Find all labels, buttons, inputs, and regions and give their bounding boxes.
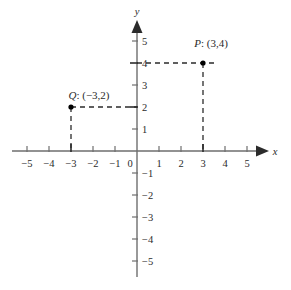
x-tick-label-5: 5 [244, 158, 249, 169]
y-tick-label-1: 1 [142, 124, 147, 135]
y-tick-label-neg1: −1 [142, 168, 153, 179]
point-q-coords: (−3,2) [82, 89, 110, 102]
x-tick-label-3: 3 [200, 158, 205, 169]
y-tick-label-neg4: −4 [142, 234, 154, 245]
x-tick-label-4: 4 [222, 158, 228, 169]
point-label-q: Q: (−3,2) [68, 89, 109, 102]
y-tick-label-neg3: −3 [142, 212, 153, 223]
y-tick-label-3: 3 [142, 80, 147, 91]
coordinate-plane-svg: −5 −4 −3 −2 −1 0 1 2 3 4 5 1 2 3 4 5 −1 … [0, 0, 291, 290]
y-axis-label: y [134, 6, 140, 17]
point-q-name: Q [68, 89, 76, 101]
x-tick-label-2: 2 [178, 158, 183, 169]
x-tick-label-neg4: −4 [43, 158, 55, 169]
x-tick-label-neg2: −2 [87, 158, 98, 169]
point-marker-p[interactable] [200, 60, 205, 65]
x-tick-label-neg3: −3 [65, 158, 76, 169]
point-marker-q[interactable] [68, 104, 73, 109]
y-tick-label-5: 5 [142, 36, 147, 47]
point-p-coords: (3,4) [207, 37, 228, 50]
x-tick-label-1: 1 [156, 158, 161, 169]
y-tick-label-neg2: −2 [142, 190, 153, 201]
coordinate-plane-figure: −5 −4 −3 −2 −1 0 1 2 3 4 5 1 2 3 4 5 −1 … [0, 0, 291, 290]
y-axis-arrowhead-icon [132, 20, 143, 33]
origin-label: 0 [127, 158, 132, 169]
x-axis-arrowhead-icon [256, 146, 269, 157]
point-label-p: P: (3,4) [193, 37, 228, 50]
x-tick-label-neg5: −5 [21, 158, 32, 169]
x-axis-label: x [272, 146, 278, 157]
y-tick-label-2: 2 [142, 102, 147, 113]
x-tick-label-neg1: −1 [109, 158, 120, 169]
y-tick-label-neg5: −5 [142, 256, 153, 267]
